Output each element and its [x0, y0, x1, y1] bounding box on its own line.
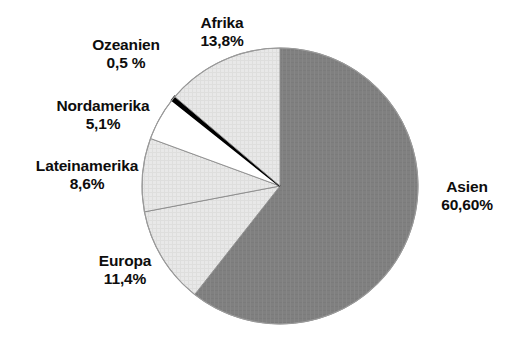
slice-label-ozeanien-value: 0,5 % [64, 54, 188, 72]
pie-chart-figure: Asien 60,60% Afrika 13,8% Ozeanien 0,5 %… [0, 0, 517, 349]
slice-label-afrika-name: Afrika [167, 14, 277, 32]
slice-label-nordamerika-name: Nordamerika [33, 97, 173, 115]
slice-label-nordamerika: Nordamerika 5,1% [33, 97, 173, 134]
slice-label-ozeanien-name: Ozeanien [64, 36, 188, 54]
slice-label-lateinamerika-value: 8,6% [11, 175, 163, 193]
slice-label-lateinamerika-name: Lateinamerika [11, 157, 163, 175]
slice-label-europa-value: 11,4% [66, 270, 184, 288]
slice-label-asien-name: Asien [420, 178, 514, 196]
slice-label-europa-name: Europa [66, 252, 184, 270]
slice-label-asien-value: 60,60% [420, 196, 514, 214]
slice-label-asien: Asien 60,60% [420, 178, 514, 215]
slice-label-europa: Europa 11,4% [66, 252, 184, 289]
slice-label-lateinamerika: Lateinamerika 8,6% [11, 157, 163, 194]
slice-label-nordamerika-value: 5,1% [33, 115, 173, 133]
slice-label-ozeanien: Ozeanien 0,5 % [64, 36, 188, 73]
